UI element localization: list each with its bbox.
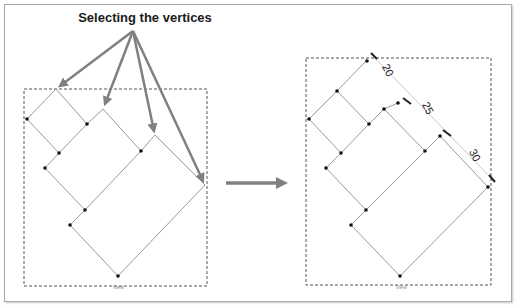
left-view-label: View (113, 284, 124, 290)
right-outline (309, 60, 488, 276)
right-panel: 20 25 30 View (306, 53, 495, 290)
right-vertices (307, 59, 490, 278)
dimension-label-1: 20 (380, 62, 396, 78)
left-view-boundary (24, 89, 207, 286)
left-panel: View (24, 31, 207, 290)
dimension-line: 20 25 30 (371, 53, 495, 182)
dimension-label-2: 25 (420, 100, 436, 116)
right-arrow-icon (226, 177, 288, 189)
dimension-label-3: 30 (467, 147, 483, 163)
left-outline (27, 89, 205, 276)
diagram-canvas: View (0, 0, 514, 307)
selection-arrows (60, 31, 203, 181)
left-vertices (25, 117, 143, 278)
right-view-label: View (396, 284, 407, 290)
right-view-boundary (306, 58, 491, 285)
